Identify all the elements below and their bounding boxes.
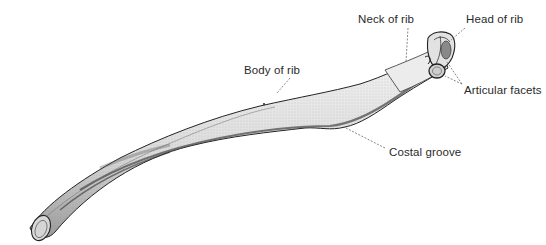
rib-illustration <box>0 0 546 245</box>
leader-head <box>451 28 465 40</box>
label-costal-groove: Costal groove <box>389 146 461 159</box>
leader-groove <box>344 127 385 148</box>
label-articular-facets: Articular facets <box>464 84 542 97</box>
label-neck-of-rib: Neck of rib <box>358 13 414 26</box>
rib-body <box>30 48 448 238</box>
rib-head <box>385 32 455 92</box>
label-body-of-rib: Body of rib <box>244 64 300 77</box>
leader-neck <box>406 28 408 62</box>
leader-body <box>277 78 290 93</box>
label-head-of-rib: Head of rib <box>466 13 523 26</box>
